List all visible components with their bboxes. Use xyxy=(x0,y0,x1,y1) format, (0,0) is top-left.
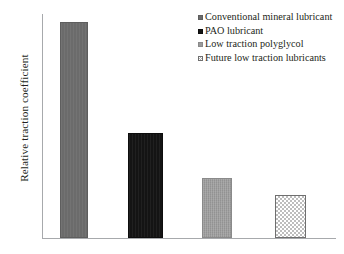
legend-swatch-light-gray-icon xyxy=(198,42,203,47)
bar-future-low-traction-lubricants xyxy=(275,195,306,238)
legend-label: PAO lubricant xyxy=(205,25,263,38)
legend-item-low-traction-polyglycol: Low traction polyglycol xyxy=(198,38,342,51)
legend: Conventional mineral lubricant PAO lubri… xyxy=(198,11,342,65)
legend-item-conventional-mineral-lubricant: Conventional mineral lubricant xyxy=(198,11,342,24)
legend-item-future-low-traction-lubricants: Future low traction lubricants xyxy=(198,52,342,65)
legend-swatch-checkerboard-icon xyxy=(198,56,203,61)
legend-swatch-black-icon xyxy=(198,29,203,34)
bar-low-traction-polyglycol xyxy=(202,178,232,238)
legend-label: Future low traction lubricants xyxy=(205,52,326,65)
bar-pao-lubricant xyxy=(128,133,163,238)
legend-label: Conventional mineral lubricant xyxy=(205,11,332,24)
legend-item-pao-lubricant: PAO lubricant xyxy=(198,25,342,38)
bar-conventional-mineral-lubricant xyxy=(60,22,88,238)
legend-label: Low traction polyglycol xyxy=(205,38,303,51)
legend-swatch-dark-gray-icon xyxy=(198,15,203,20)
bar-chart: Relative traction coefficient Convention… xyxy=(0,0,344,254)
